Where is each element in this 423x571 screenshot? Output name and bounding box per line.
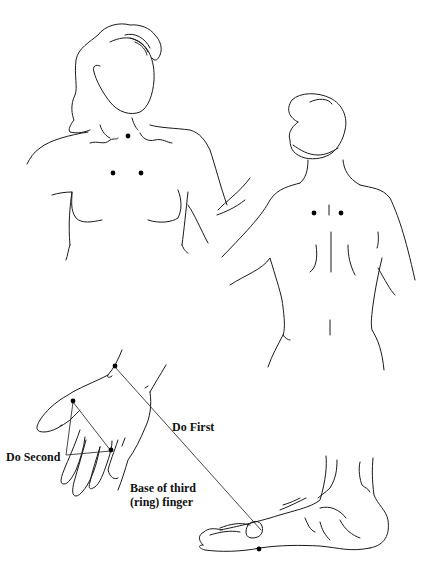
point-chest-center [126, 134, 131, 139]
back-figure [222, 94, 415, 370]
do-second-label: Do Second [6, 450, 60, 464]
base-label-line2: (ring) finger [130, 495, 196, 509]
base-of-third-finger-label: Base of third (ring) finger [130, 481, 196, 509]
point-foot [257, 547, 262, 552]
base-label-line1: Base of third [130, 481, 196, 495]
acupressure-points [71, 134, 344, 552]
hand-figure [37, 350, 166, 496]
point-hand-top [71, 399, 76, 404]
front-figure [27, 24, 250, 260]
foot-figure [115, 367, 388, 551]
point-hand-ring [109, 448, 114, 453]
point-wrist [113, 364, 118, 369]
point-chest-right [139, 171, 144, 176]
point-back-left [312, 211, 317, 216]
point-back-right [339, 211, 344, 216]
do-first-label: Do First [172, 420, 214, 434]
acupressure-diagram: Do First Do Second Base of third (ring) … [0, 0, 423, 571]
illustration [0, 0, 423, 571]
point-chest-left [111, 171, 116, 176]
